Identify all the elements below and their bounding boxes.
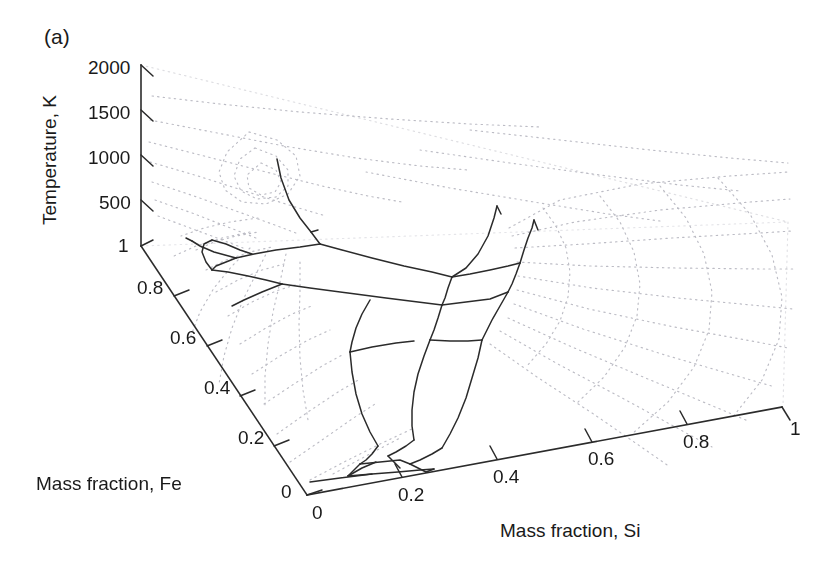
si-tick-1: 1 xyxy=(790,419,801,438)
si-tick-0-6: 0.6 xyxy=(588,449,614,468)
z-tick-500: 500 xyxy=(99,193,131,212)
si-tick-0: 0 xyxy=(312,503,323,522)
figure-panel-a: (a) Temperature, K Mass fraction, Fe Mas… xyxy=(0,0,840,579)
z-tick-1000: 1000 xyxy=(88,148,130,167)
z-axis-title: Temperature, K xyxy=(40,95,59,225)
si-axis-line xyxy=(307,407,782,495)
z-tick-2000: 2000 xyxy=(88,58,130,77)
panel-label: (a) xyxy=(44,26,70,47)
z-tick-1500: 1500 xyxy=(88,103,130,122)
si-tick-0-8: 0.8 xyxy=(683,432,709,451)
si-tick-0-2: 0.2 xyxy=(398,485,424,504)
fe-tick-0-2: 0.2 xyxy=(238,428,264,447)
si-tick-0-4: 0.4 xyxy=(493,467,519,486)
fe-tick-0-4: 0.4 xyxy=(204,378,230,397)
fe-tick-0-6: 0.6 xyxy=(170,328,196,347)
fe-axis-title: Mass fraction, Fe xyxy=(36,474,182,493)
si-axis-title: Mass fraction, Si xyxy=(500,521,640,540)
z-tick-1: 1 xyxy=(118,236,129,255)
fe-tick-0-8: 0.8 xyxy=(137,278,163,297)
fe-tick-0: 0 xyxy=(281,482,292,501)
